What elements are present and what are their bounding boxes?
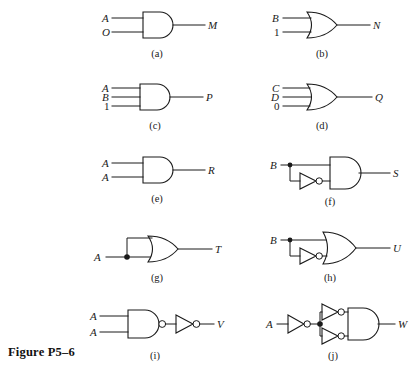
input-label-i1: A [89,310,97,322]
inverter-bubble-f [316,178,322,184]
part-label-e: (e) [151,193,163,205]
or-gate-body-g [148,236,178,262]
circuit-part-f [281,157,390,189]
inverter-triangle-h [300,248,316,264]
and-gate-body-c [140,84,170,110]
and-gate-body-j [348,308,379,340]
inverter-bubble-h [316,253,322,259]
inverter-bubble-j2 [338,309,344,315]
part-label-g: (g) [151,272,164,284]
figure-caption: Figure P5–6 [8,345,75,360]
inverter-triangle-i [176,315,193,333]
inverter-triangle-j2 [322,304,338,320]
output-label-c: P [205,91,213,103]
input-label-d3: 0 [274,100,280,112]
and-gate-body-a [143,12,173,38]
input-label-c3: 1 [104,100,110,112]
or-gate-body-b [307,12,337,38]
input-label-a2: O [102,26,110,38]
inverter-bubble-j3 [338,333,344,339]
part-label-c: (c) [149,120,161,132]
input-label-e1: A [101,157,109,169]
output-label-d: Q [375,91,383,103]
output-label-b: N [372,19,381,31]
inverter-triangle-j1 [288,315,304,333]
circuit-part-j [277,304,395,344]
part-label-b: (b) [316,48,329,60]
inverter-triangle-f [300,173,316,189]
part-label-i: (i) [150,350,160,362]
circuit-part-d [283,84,372,110]
feedback-wire-g [127,238,152,257]
circuit-part-g [106,236,212,262]
circuit-part-i [100,310,214,338]
and-gate-body-f [330,157,361,189]
part-label-j: (j) [328,350,338,362]
output-label-a: M [207,19,218,31]
and-gate-body-e [143,157,173,183]
input-label-e2: A [101,171,109,183]
nand-output-bubble-i [159,321,166,328]
part-label-d: (d) [316,120,329,132]
input-label-i2: A [89,326,97,338]
circuit-part-a [112,12,205,38]
input-label-a1: A [101,12,109,24]
or-gate-body-h [323,232,356,264]
output-label-h: U [393,242,402,254]
circuit-part-b [283,12,370,38]
logic-circuit-diagram: A O M (a) B 1 N (b) A B 1 P (c) C D 0 Q … [0,0,415,386]
input-label-g1: A [93,251,101,263]
inverter-triangle-j3 [322,328,338,344]
input-label-b1: B [272,12,279,24]
branch-wire-h [290,240,300,256]
part-label-h: (h) [324,272,337,284]
branch-wire-f [290,165,300,181]
output-label-i: V [217,318,225,330]
input-label-j1: A [265,318,273,330]
circuit-part-c [112,84,203,110]
part-label-f: (f) [325,196,336,208]
circuit-part-h [281,232,390,264]
circuit-part-e [112,157,205,183]
output-label-g: T [215,243,222,255]
input-label-f1: B [270,159,277,171]
figure-root: A O M (a) B 1 N (b) A B 1 P (c) C D 0 Q … [0,0,415,386]
part-label-a: (a) [151,48,163,60]
inverter-bubble-i [193,321,200,328]
output-label-e: R [207,164,215,176]
output-label-f: S [393,167,399,179]
inverter-bubble-j1 [304,321,310,327]
nand-gate-body-i [128,310,159,338]
output-label-j: W [398,318,408,330]
input-label-h1: B [270,234,277,246]
input-label-b2: 1 [274,26,280,38]
